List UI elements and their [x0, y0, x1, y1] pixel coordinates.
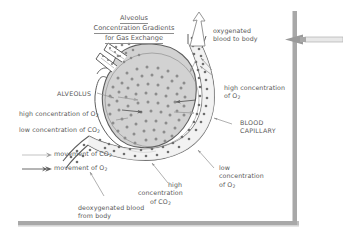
legend-arrow-co2-icon	[22, 151, 54, 159]
label-blood-capillary: BLOOD CAPILLARY	[240, 119, 276, 136]
legend-item-movement-of-co2: movement of CO2	[22, 150, 112, 160]
legend-item-movement-of-o2: movement of O2	[22, 164, 112, 174]
legend-arrow-o2-icon	[22, 165, 54, 173]
label-alveolus: ALVEOLUS	[57, 90, 91, 98]
label-high-concentration-o2-left: high concentration of O2	[19, 110, 99, 120]
diagram-page: Alveolus Concentration Gradients for Gas…	[0, 0, 343, 239]
oxygenated-blood-arrow	[190, 12, 205, 46]
legend-label-o2: movement of O2	[54, 164, 107, 174]
label-high-concentration-co2-bottom: high concentration of CO2	[168, 181, 183, 208]
label-deoxygenated-blood: deoxygenated blood from body	[78, 204, 144, 221]
title-line-2: Concentration Gradients	[78, 23, 190, 33]
diagram-title: Alveolus Concentration Gradients for Gas…	[78, 13, 190, 43]
label-low-concentration-o2-right: low concentration of O2	[219, 164, 264, 191]
legend: movement of CO2 movement of O2	[22, 150, 112, 174]
legend-label-co2: movement of CO2	[54, 150, 112, 160]
alveolus-sac	[95, 44, 199, 152]
title-line-1: Alveolus	[78, 13, 190, 23]
label-oxygenated-blood: oxygenated blood to body	[213, 27, 258, 44]
label-high-concentration-o2-right: high concentration of O2	[224, 84, 285, 103]
label-low-concentration-co2-left: low concentration of CO2	[19, 126, 100, 136]
title-line-3: for Gas Exchange	[78, 33, 190, 43]
